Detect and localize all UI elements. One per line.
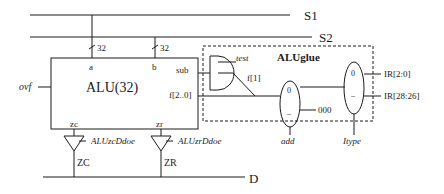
ovf-label: ovf: [19, 81, 32, 92]
alu-port-b: b: [152, 62, 157, 72]
mux-itype-select: Itype: [342, 136, 361, 146]
buffer-zc: ALUzcDdoe ZC: [64, 129, 135, 177]
f1-label: f[1]: [247, 73, 261, 83]
ir-high-label: IR[28:26]: [384, 91, 420, 101]
width-b-label: 32: [160, 43, 169, 53]
alu-port-zc: zc: [70, 119, 78, 129]
bus-s2-label: S2: [319, 30, 333, 45]
mux-add: 0 – 000 add: [280, 81, 345, 146]
test-label: test: [236, 53, 249, 63]
alu-block: a b sub ALU(32) f[2..0] zc zr: [51, 58, 198, 129]
mux-add-in0: 0: [287, 86, 291, 95]
alu-port-sub: sub: [176, 65, 189, 75]
buffer-zc-output: ZC: [77, 157, 90, 168]
alu-port-f: f[2..0]: [169, 90, 192, 100]
bus-s1-label: S1: [304, 8, 318, 23]
mux-add-in1: –: [286, 109, 292, 118]
buffer-zr-enable: ALUzrDdoe: [177, 136, 222, 146]
buffer-zr-output: ZR: [164, 157, 177, 168]
const-000: 000: [318, 105, 332, 115]
alu-port-zr: zr: [156, 119, 163, 129]
mux-itype-in1: –: [350, 91, 356, 100]
wire-sub: test: [198, 53, 249, 90]
bus-d-label: D: [249, 171, 258, 186]
mux-itype: 0 – IR[2:0] IR[28:26] Itype: [342, 62, 420, 146]
bus-s1: S1: [30, 8, 318, 23]
bus-s2: S2: [30, 30, 333, 45]
alu-title: ALU(32): [86, 80, 138, 96]
alu-datapath-diagram: S1 S2 D 32 32 a b sub ALU(32) f[2..0] zc…: [0, 0, 444, 194]
aluglue-title: ALUglue: [277, 51, 320, 63]
alu-port-a: a: [89, 62, 93, 72]
mux-add-select: add: [281, 136, 295, 146]
wire-f1: f[1]: [233, 73, 261, 96]
bus-d: D: [43, 171, 258, 186]
buffer-zc-enable: ALUzcDdoe: [90, 136, 135, 146]
wire-b: 32: [152, 37, 169, 58]
mux-itype-in0: 0: [351, 69, 355, 78]
ovf-output: ovf: [19, 81, 51, 92]
buffer-zr: ALUzrDdoe ZR: [151, 129, 222, 177]
ir-low-label: IR[2:0]: [384, 69, 411, 79]
width-a-label: 32: [97, 43, 106, 53]
